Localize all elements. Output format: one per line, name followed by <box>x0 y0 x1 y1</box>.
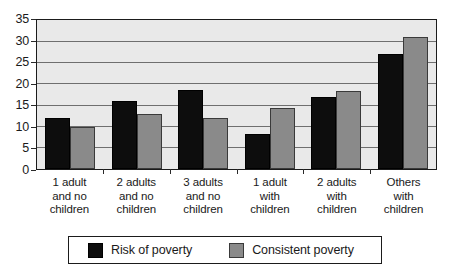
x-axis-label-line: 2 adults <box>303 176 370 190</box>
x-axis-label: 2 adultsand nochildren <box>103 176 170 217</box>
x-axis-label-line: children <box>370 203 437 217</box>
bar-consistent-poverty <box>203 118 228 169</box>
y-tick-label: 15 <box>15 99 29 112</box>
bar-consistent-poverty <box>336 91 361 169</box>
legend-swatch-icon-consistent-poverty <box>229 243 244 258</box>
bar-consistent-poverty <box>137 114 162 169</box>
bar-risk-of-poverty <box>311 97 336 169</box>
legend-item-risk-of-poverty: Risk of poverty <box>88 243 192 258</box>
y-axis: 35302520151050 <box>0 0 36 190</box>
category-tick-mark <box>370 169 371 174</box>
bar-chart: 35302520151050 1 adultand nochildren2 ad… <box>0 0 449 280</box>
x-axis-label: 2 adultswithchildren <box>303 176 370 217</box>
bar-group <box>104 20 171 169</box>
y-tick-label: 10 <box>15 121 29 134</box>
x-axis-label-line: with <box>236 190 303 204</box>
bar-group <box>170 20 237 169</box>
bar-risk-of-poverty <box>178 90 203 169</box>
y-tick-label: 0 <box>22 164 29 177</box>
x-axis-label-line: and no <box>36 190 103 204</box>
chart-legend: Risk of poverty Consistent poverty <box>68 236 382 264</box>
x-axis-label-line: children <box>103 203 170 217</box>
legend-label-risk-of-poverty: Risk of poverty <box>111 244 192 257</box>
x-axis-label-line: Others <box>370 176 437 190</box>
y-tick-label: 20 <box>15 77 29 90</box>
x-axis-label-line: and no <box>103 190 170 204</box>
bar-consistent-poverty <box>70 127 95 169</box>
x-axis-label-line: children <box>236 203 303 217</box>
bar-group <box>303 20 370 169</box>
category-tick-mark <box>303 169 304 174</box>
x-axis-label: Otherswithchildren <box>370 176 437 217</box>
plot-area <box>36 19 437 170</box>
x-axis-label-line: with <box>303 190 370 204</box>
bar-group <box>237 20 304 169</box>
x-axis-label: 3 adultsand nochildren <box>170 176 237 217</box>
category-tick-mark <box>170 169 171 174</box>
category-tick-mark <box>103 169 104 174</box>
bar-risk-of-poverty <box>45 118 70 169</box>
bar-risk-of-poverty <box>245 134 270 169</box>
x-axis-label-line: 3 adults <box>170 176 237 190</box>
x-axis-label-line: and no <box>170 190 237 204</box>
y-tick-mark <box>31 170 36 171</box>
bar-risk-of-poverty <box>112 101 137 169</box>
x-axis-labels: 1 adultand nochildren2 adultsand nochild… <box>36 176 437 217</box>
bars-layer <box>37 20 436 169</box>
x-axis-label-line: children <box>303 203 370 217</box>
x-axis-label-line: 1 adult <box>36 176 103 190</box>
y-tick-label: 35 <box>15 13 29 26</box>
x-axis-label-line: with <box>370 190 437 204</box>
category-tick-mark <box>237 169 238 174</box>
y-tick-label: 25 <box>15 56 29 69</box>
x-axis-label-line: children <box>170 203 237 217</box>
x-axis-label-line: 2 adults <box>103 176 170 190</box>
legend-swatch-icon-risk-of-poverty <box>88 243 103 258</box>
bar-group <box>370 20 437 169</box>
bar-consistent-poverty <box>403 37 428 169</box>
x-axis-label-line: 1 adult <box>236 176 303 190</box>
legend-item-consistent-poverty: Consistent poverty <box>229 243 354 258</box>
x-axis-label: 1 adultwithchildren <box>236 176 303 217</box>
x-axis-label: 1 adultand nochildren <box>36 176 103 217</box>
y-tick-label: 5 <box>22 142 29 155</box>
legend-label-consistent-poverty: Consistent poverty <box>252 244 354 257</box>
bar-consistent-poverty <box>270 108 295 169</box>
y-tick-label: 30 <box>15 34 29 47</box>
bar-group <box>37 20 104 169</box>
plot-region: 35302520151050 <box>0 0 449 190</box>
bar-risk-of-poverty <box>378 54 403 169</box>
x-axis-label-line: children <box>36 203 103 217</box>
